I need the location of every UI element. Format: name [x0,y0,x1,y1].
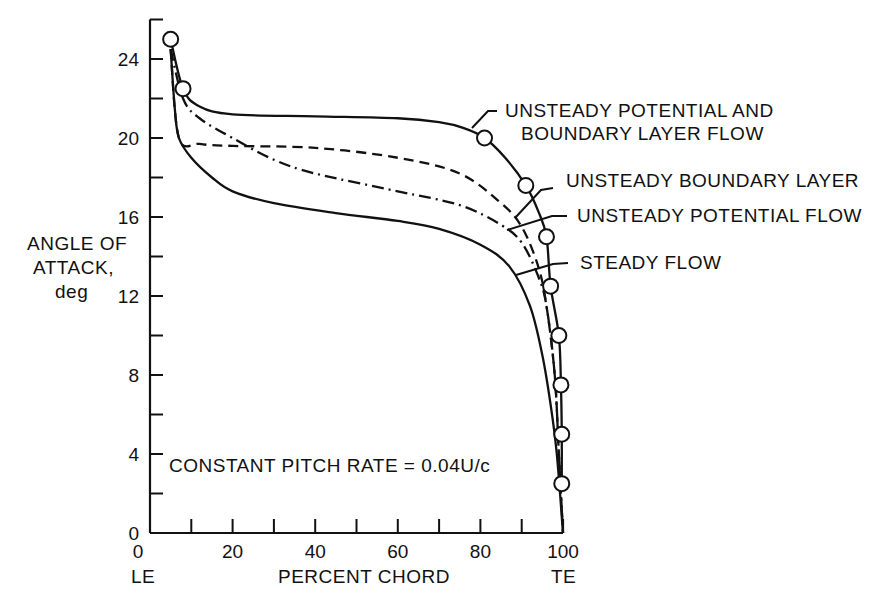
y-axis-title-line3: deg [55,281,88,302]
y-axis-title-line1: ANGLE OF [27,233,127,254]
callout-potential-bl-line2: BOUNDARY LAYER FLOW [521,123,764,144]
x-tick-label: 20 [222,541,243,562]
x-tick-label: 60 [387,541,408,562]
chart: 04812162024020406080100 UNSTEADY POTENTI… [0,0,871,607]
y-tick-label: 20 [118,128,139,149]
callout-potential-bl-line1: UNSTEADY POTENTIAL AND [505,100,774,121]
callout-unsteady-bl: UNSTEADY BOUNDARY LAYER [566,170,859,191]
open-circle-marker [543,279,558,294]
open-circle-marker [553,377,568,392]
pitch-rate-annotation: CONSTANT PITCH RATE = 0.04U/c [169,455,490,476]
x-axis-te-label: TE [551,566,576,587]
x-axis-title: PERCENT CHORD [278,566,450,587]
callout-unsteady-potential: UNSTEADY POTENTIAL FLOW [577,205,862,226]
x-tick-label: 100 [547,541,579,562]
y-tick-label: 16 [118,207,139,228]
callout-steady: STEADY FLOW [580,252,721,273]
open-circle-marker [554,427,569,442]
open-circle-marker [477,131,492,146]
open-circle-marker [554,476,569,491]
x-axis-le-label: LE [131,566,155,587]
open-circle-marker [518,178,533,193]
y-tick-label: 8 [128,365,139,386]
leader-line-steady [516,263,568,275]
series-unsteady-potential-bl [171,39,562,483]
x-tick-label: 80 [470,541,491,562]
y-axis-title-line2: ATTACK, [33,257,114,278]
y-tick-label: 12 [118,286,139,307]
open-circle-marker [163,32,178,47]
open-circle-marker [539,229,554,244]
leader-line-potential-bl [472,111,497,128]
x-tick-label: 0 [133,541,144,562]
y-tick-label: 4 [128,444,139,465]
y-tick-label: 24 [118,49,140,70]
x-tick-label: 40 [305,541,326,562]
open-circle-marker [551,328,566,343]
open-circle-marker [176,81,191,96]
